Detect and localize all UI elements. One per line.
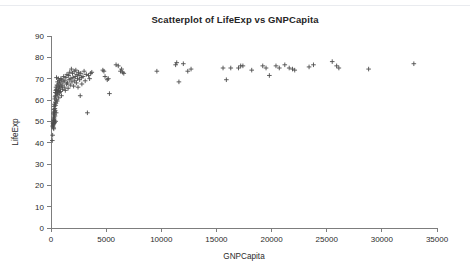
data-point-marker <box>90 70 95 75</box>
y-tick-label: 30 <box>35 160 44 169</box>
data-point-marker <box>107 91 112 96</box>
data-point-marker <box>63 88 68 93</box>
data-point-marker <box>287 66 292 71</box>
data-point-marker <box>51 127 56 132</box>
data-point-marker <box>66 86 71 91</box>
data-point-marker <box>80 82 85 87</box>
y-tick-label: 20 <box>35 181 44 190</box>
data-point-marker <box>290 67 295 72</box>
y-tick-label: 40 <box>35 139 44 148</box>
data-point-marker <box>412 61 417 66</box>
x-tick-label: 0 <box>49 235 54 244</box>
data-point-marker <box>103 74 108 79</box>
data-point-marker <box>249 68 254 73</box>
data-point-marker <box>118 69 123 74</box>
y-tick-label: 60 <box>35 96 44 105</box>
data-point-marker <box>84 72 89 77</box>
plot-area: 0500010000150002000025000300003500001020… <box>0 0 470 275</box>
x-tick-label: 35000 <box>426 235 449 244</box>
data-point-marker <box>85 111 90 116</box>
y-tick-label: 50 <box>35 117 44 126</box>
data-point-marker <box>236 66 241 71</box>
y-tick-label: 70 <box>35 75 44 84</box>
data-point-marker <box>334 64 339 69</box>
data-point-marker <box>102 69 107 74</box>
x-tick-label: 10000 <box>150 235 173 244</box>
axis-labels-layer: 0500010000150002000025000300003500001020… <box>11 32 449 261</box>
data-point-marker <box>292 68 297 73</box>
data-point-marker <box>71 84 76 89</box>
data-point-marker <box>83 79 88 84</box>
data-point-marker <box>241 64 246 69</box>
y-axis-title: LifeExp <box>11 118 20 146</box>
data-point-marker <box>120 70 125 75</box>
x-tick-label: 5000 <box>97 235 115 244</box>
y-tick-label: 0 <box>40 224 45 233</box>
x-tick-label: 25000 <box>316 235 339 244</box>
data-point-marker <box>330 59 335 64</box>
data-point-marker <box>307 65 312 70</box>
y-tick-label: 90 <box>35 32 44 41</box>
data-point-marker <box>78 93 83 98</box>
y-tick-label: 10 <box>35 203 44 212</box>
data-points-layer <box>50 59 416 143</box>
x-axis-title: GNPCapita <box>223 252 265 261</box>
x-tick-label: 30000 <box>371 235 394 244</box>
data-point-marker <box>106 76 111 81</box>
data-point-marker <box>119 67 124 72</box>
data-point-marker <box>181 61 186 66</box>
data-point-marker <box>64 75 69 80</box>
data-point-marker <box>88 71 93 76</box>
data-point-marker <box>337 66 342 71</box>
data-point-marker <box>283 63 288 68</box>
data-point-marker <box>224 77 229 82</box>
y-tick-label: 80 <box>35 53 44 62</box>
data-point-marker <box>173 63 178 68</box>
data-point-marker <box>264 66 269 71</box>
data-point-marker <box>277 66 282 71</box>
data-point-marker <box>177 80 182 85</box>
axes-layer <box>47 36 437 232</box>
data-point-marker <box>228 66 233 71</box>
data-point-marker <box>101 68 106 73</box>
data-point-marker <box>155 69 160 74</box>
x-tick-label: 15000 <box>205 235 228 244</box>
data-point-marker <box>87 76 92 81</box>
data-point-marker <box>221 66 226 71</box>
scatterplot-figure: Scatterplot of LifeExp vs GNPCapita 0500… <box>0 0 470 275</box>
data-point-marker <box>86 73 91 78</box>
data-point-marker <box>189 67 194 72</box>
data-point-marker <box>260 64 265 69</box>
data-point-marker <box>267 73 272 78</box>
data-point-marker <box>53 93 58 98</box>
data-point-marker <box>274 64 279 69</box>
data-point-marker <box>185 69 190 74</box>
data-point-marker <box>174 60 179 65</box>
data-point-marker <box>116 64 121 69</box>
data-point-marker <box>105 77 110 82</box>
data-point-marker <box>121 71 126 76</box>
data-point-marker <box>114 63 119 68</box>
data-point-marker <box>76 85 81 90</box>
x-tick-label: 20000 <box>260 235 283 244</box>
data-point-marker <box>366 67 371 72</box>
data-point-marker <box>311 63 316 68</box>
data-point-marker <box>82 69 87 74</box>
